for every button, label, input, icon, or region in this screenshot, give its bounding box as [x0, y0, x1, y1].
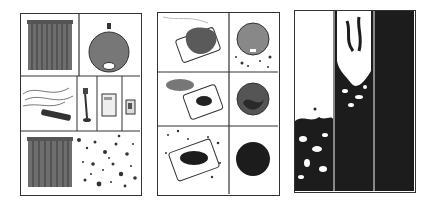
- divider: [373, 11, 375, 191]
- dust-clump-phone-icon: [163, 17, 221, 63]
- phone-small-dust-icon: [166, 79, 223, 120]
- solid-dark-circle-icon: [236, 142, 270, 176]
- stage-column-3: [375, 11, 414, 191]
- stage-column-1: [295, 11, 333, 191]
- power-strip-icon: [23, 88, 73, 121]
- small-appliance-icon: [126, 100, 135, 114]
- divider: [333, 11, 335, 191]
- panel-sources: [20, 13, 142, 196]
- panel-fill-stages-art: [295, 11, 414, 191]
- computer-tower-icon: [102, 94, 116, 116]
- panel-fill-stages: [294, 10, 416, 193]
- panel-accumulation-art: [158, 13, 278, 194]
- circle-particles-icon: [235, 23, 272, 68]
- stage-column-2: [335, 11, 373, 191]
- curtain-emitting-icon: [27, 135, 137, 188]
- desk-lamp-icon: [83, 88, 91, 122]
- panel-sources-art: [21, 14, 140, 194]
- curtain-icon: [27, 20, 73, 70]
- phone-covered-icon: [165, 130, 221, 182]
- round-speaker-icon: [89, 23, 129, 72]
- circle-darkening-icon: [237, 83, 269, 115]
- panel-accumulation: [157, 12, 280, 196]
